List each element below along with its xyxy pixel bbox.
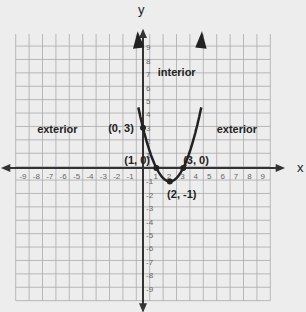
- point-label-1-0: (1, 0): [124, 154, 150, 166]
- y-tick-label: -5: [146, 231, 154, 240]
- x-tick-label: 5: [207, 172, 212, 181]
- y-tick-label: -6: [146, 244, 154, 253]
- x-tick-label: 7: [234, 172, 239, 181]
- x-tick-label: -5: [73, 172, 81, 181]
- y-tick-label: -7: [146, 258, 154, 267]
- x-tick-label: 6: [220, 172, 225, 181]
- point-marker: [153, 165, 159, 171]
- x-axis-label: x: [297, 160, 304, 175]
- y-tick-label: 8: [146, 57, 151, 66]
- x-axis-left-arrow-icon: [1, 164, 10, 172]
- y-tick-label: -4: [146, 218, 154, 227]
- x-tick-label: 1: [153, 172, 158, 181]
- y-tick-label: 7: [146, 70, 151, 79]
- y-tick-label: 4: [146, 110, 151, 119]
- y-tick-label: -3: [146, 204, 154, 213]
- y-tick-label: -2: [146, 191, 154, 200]
- point-label-2-neg1: (2, -1): [167, 188, 197, 200]
- y-tick-label: -1: [146, 177, 154, 186]
- x-tick-label: 4: [194, 172, 199, 181]
- y-tick-label: 3: [146, 124, 151, 133]
- point-label-0-3: (0, 3): [108, 122, 134, 134]
- y-tick-label: -9: [146, 285, 154, 294]
- point-marker: [167, 178, 173, 184]
- region-label-exterior-left: exterior: [37, 123, 78, 135]
- point-marker: [140, 125, 146, 131]
- x-tick-label: -9: [19, 172, 27, 181]
- x-axis-right-arrow-icon: [276, 164, 285, 172]
- y-tick-label: 9: [146, 43, 151, 52]
- x-tick-label: 8: [247, 172, 252, 181]
- coordinate-plane: xy-9-8-7-6-5-4-3-2-1123456789987654321-1…: [0, 0, 306, 312]
- x-tick-label: -4: [86, 172, 94, 181]
- y-axis-up-arrow-icon: [139, 29, 147, 38]
- y-tick-label: 5: [146, 97, 151, 106]
- y-tick-label: -8: [146, 271, 154, 280]
- x-tick-label: -8: [33, 172, 41, 181]
- x-tick-label: -1: [127, 172, 135, 181]
- region-label-interior: interior: [158, 66, 197, 78]
- x-tick-label: -2: [113, 172, 121, 181]
- region-label-exterior-right: exterior: [217, 123, 258, 135]
- x-tick-label: -7: [46, 172, 54, 181]
- y-axis-down-arrow-icon: [139, 303, 147, 312]
- curve-right-arrow-icon: [195, 31, 206, 48]
- x-tick-label: -3: [100, 172, 108, 181]
- x-tick-label: 9: [261, 172, 266, 181]
- y-tick-label: 6: [146, 84, 151, 93]
- x-tick-label: -6: [60, 172, 68, 181]
- y-axis-label: y: [138, 2, 145, 17]
- point-label-3-0: (3, 0): [183, 154, 209, 166]
